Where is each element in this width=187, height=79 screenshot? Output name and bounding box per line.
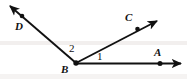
ray-BD	[10, 6, 76, 63]
geometry-figure: D C A B 2 1	[0, 0, 187, 79]
point-label-B: B	[61, 64, 68, 75]
point-C-dot	[135, 27, 140, 32]
ray-BC	[76, 21, 157, 63]
angle-label-2: 2	[69, 43, 75, 54]
point-label-C: C	[125, 12, 132, 23]
angle-label-1: 1	[97, 51, 103, 62]
point-A-dot	[158, 61, 163, 66]
point-label-D: D	[15, 21, 23, 32]
geometry-canvas	[0, 0, 187, 79]
point-B-dot	[73, 60, 78, 65]
point-label-A: A	[154, 47, 161, 58]
point-D-dot	[20, 14, 25, 19]
